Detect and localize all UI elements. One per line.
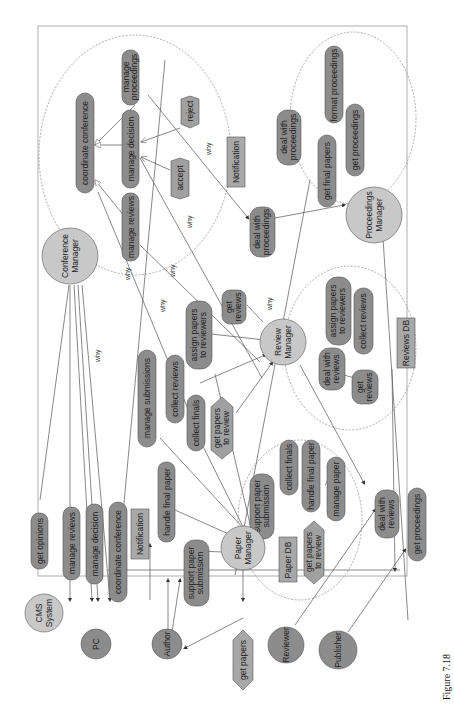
dependum-deal-with-reviews[interactable]: deal with reviews xyxy=(375,490,399,538)
agent-publisher[interactable]: Publisher xyxy=(319,631,357,669)
dependum-support-paper-submission[interactable]: support paper submission xyxy=(184,540,209,606)
svg-text:reviews: reviews xyxy=(233,293,243,322)
agent-reviewer[interactable]: Reviewer xyxy=(268,627,304,663)
svg-text:manage paper: manage paper xyxy=(331,461,341,516)
goal-coordinate-conference[interactable]: coordinate conference xyxy=(76,93,94,193)
goal-get-reviews-inner[interactable]: get reviews xyxy=(352,370,378,404)
i-star-diagram: coordinate conference manage proceedings… xyxy=(0,0,454,711)
dependum-get-papers-to-review[interactable]: get papers to review xyxy=(211,397,233,459)
svg-text:why: why xyxy=(124,267,132,281)
dependum-handle-final-paper[interactable]: handle final paper xyxy=(158,462,175,542)
svg-text:coordinate conference: coordinate conference xyxy=(113,510,123,594)
svg-text:Manager: Manager xyxy=(243,531,253,565)
svg-text:Paper: Paper xyxy=(233,536,243,559)
svg-text:manage submissions: manage submissions xyxy=(142,358,152,438)
dependum-manage-decision[interactable]: manage decision xyxy=(86,504,103,584)
goal-manage-decision[interactable]: manage decision xyxy=(122,110,139,188)
svg-text:Publisher: Publisher xyxy=(333,632,343,668)
goal-get-final-papers[interactable]: get final papers xyxy=(318,135,336,207)
goal-get-proceedings-inner[interactable]: get proceedings xyxy=(346,104,364,176)
svg-text:collect finals: collect finals xyxy=(191,400,201,446)
svg-text:System: System xyxy=(44,599,54,627)
svg-text:reviews: reviews xyxy=(364,373,374,402)
svg-text:Reviews DB: Reviews DB xyxy=(401,320,411,367)
svg-text:CMS: CMS xyxy=(34,603,44,622)
svg-text:Notification: Notification xyxy=(231,141,241,183)
dependum-collect-finals[interactable]: collect finals xyxy=(187,395,205,451)
svg-text:PC: PC xyxy=(91,638,101,650)
svg-text:get opinions: get opinions xyxy=(35,518,45,564)
svg-text:why: why xyxy=(169,264,177,278)
svg-text:manage decision: manage decision xyxy=(90,512,100,577)
svg-text:Conference: Conference xyxy=(60,234,70,278)
svg-text:collect reviews: collect reviews xyxy=(358,293,368,348)
svg-text:why: why xyxy=(94,349,102,363)
task-accept[interactable]: accept xyxy=(171,158,189,199)
svg-text:Manager: Manager xyxy=(70,239,80,273)
dependum-manage-reviews[interactable]: manage reviews xyxy=(63,507,80,580)
svg-text:to review: to review xyxy=(221,410,231,445)
actor-cms-system[interactable]: CMS System xyxy=(25,594,63,632)
goal-manage-paper-inner[interactable]: manage paper xyxy=(327,457,345,521)
svg-text:get proceedings: get proceedings xyxy=(350,110,360,171)
actor-review-manager[interactable]: Review Manager xyxy=(260,319,306,365)
svg-text:reviews: reviews xyxy=(386,500,396,529)
dependum-notification-author[interactable]: Notification xyxy=(131,509,149,559)
svg-text:get papers: get papers xyxy=(238,640,248,680)
agent-author[interactable]: Author xyxy=(152,629,182,659)
paper-manager-goals: support paper submission collect finals … xyxy=(250,440,345,584)
actor-paper-manager[interactable]: Paper Manager xyxy=(221,526,265,570)
svg-text:Review: Review xyxy=(273,327,283,356)
goal-deal-with-proceedings[interactable]: deal with proceedings xyxy=(277,110,301,165)
svg-text:get final papers: get final papers xyxy=(322,142,332,200)
svg-text:proceedings: proceedings xyxy=(129,54,139,100)
goal-manage-reviews[interactable]: manage reviews xyxy=(122,193,139,261)
goal-collect-reviews-inner[interactable]: collect reviews xyxy=(354,288,373,354)
svg-text:proceedings: proceedings xyxy=(261,209,271,255)
svg-text:to review: to review xyxy=(313,534,323,569)
svg-text:Notification: Notification xyxy=(135,513,145,555)
notification-cm[interactable]: Notification xyxy=(227,137,245,187)
resource-paper-db[interactable]: Paper DB xyxy=(279,537,297,582)
svg-text:format proceedings: format proceedings xyxy=(329,49,339,122)
svg-text:reviews: reviews xyxy=(331,355,341,384)
svg-text:get proceedings: get proceedings xyxy=(412,494,422,555)
goal-collect-finals-inner[interactable]: collect finals xyxy=(280,440,298,495)
svg-text:Paper DB: Paper DB xyxy=(283,541,293,578)
svg-text:manage reviews: manage reviews xyxy=(126,196,136,258)
svg-text:why: why xyxy=(266,297,274,311)
conference-manager-goals: coordinate conference manage proceedings… xyxy=(76,50,199,261)
svg-text:collect reviews: collect reviews xyxy=(170,361,180,416)
dependum-deal-with-proceedings[interactable]: deal with proceedings xyxy=(250,207,275,257)
goal-handle-final-paper-inner[interactable]: handle final paper xyxy=(302,440,320,512)
dependum-manage-submissions[interactable]: manage submissions xyxy=(138,350,156,447)
dependum-coordinate-conference[interactable]: coordinate conference xyxy=(109,502,127,602)
goal-assign-papers-inner[interactable]: assign papers to reviewers xyxy=(326,277,351,345)
svg-text:Author: Author xyxy=(162,631,172,656)
svg-text:collect finals: collect finals xyxy=(284,444,294,490)
dependum-get-reviews[interactable]: get reviews xyxy=(222,290,246,324)
dependum-assign-papers[interactable]: assign papers to reviewers xyxy=(186,301,212,369)
proceedings-manager-goals: deal with proceedings format proceedings… xyxy=(277,46,364,207)
goal-format-proceedings[interactable]: format proceedings xyxy=(325,46,343,123)
svg-text:proceedings: proceedings xyxy=(288,114,298,160)
svg-text:handle final paper: handle final paper xyxy=(162,468,172,536)
task-reject[interactable]: reject xyxy=(181,96,199,128)
svg-text:to reviewers: to reviewers xyxy=(337,288,347,334)
svg-text:submission: submission xyxy=(261,484,271,527)
resource-reviews-db[interactable]: Reviews DB xyxy=(397,318,415,368)
agent-pc[interactable]: PC xyxy=(81,629,111,659)
review-manager-goals: assign papers to reviewers collect revie… xyxy=(319,277,415,404)
dependum-get-opinions[interactable]: get opinions xyxy=(31,513,48,569)
svg-text:reject: reject xyxy=(185,100,195,121)
dependum-get-papers[interactable]: get papers xyxy=(233,630,253,690)
actor-proceedings-manager[interactable]: Proceedings Manager xyxy=(346,187,402,243)
svg-text:coordinate conference: coordinate conference xyxy=(80,101,90,185)
goal-manage-proceedings[interactable]: manage proceedings xyxy=(121,50,139,105)
actor-conference-manager[interactable]: Conference Manager xyxy=(42,228,98,284)
svg-text:handle final paper: handle final paper xyxy=(306,442,316,510)
task-get-papers-to-review-inner[interactable]: get papers to review xyxy=(304,521,324,584)
dependum-get-proceedings[interactable]: get proceedings xyxy=(408,488,426,561)
goal-deal-with-reviews-inner[interactable]: deal with reviews xyxy=(319,348,345,390)
dependum-collect-reviews[interactable]: collect reviews xyxy=(166,355,184,423)
